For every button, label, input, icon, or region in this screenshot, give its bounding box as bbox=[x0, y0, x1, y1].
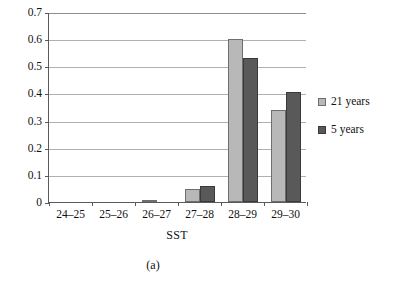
y-axis-tick-label: 0.3 bbox=[28, 116, 42, 128]
bar bbox=[286, 92, 301, 202]
y-axis-tick-label: 0.2 bbox=[28, 143, 42, 155]
x-axis-tick-label: 24–25 bbox=[56, 209, 85, 221]
bars-layer bbox=[49, 13, 306, 202]
legend-swatch-icon bbox=[318, 126, 326, 134]
bar-group bbox=[221, 13, 264, 202]
y-axis-tick-label: 0.7 bbox=[28, 7, 42, 19]
x-axis-tick-mark bbox=[221, 202, 222, 206]
bar bbox=[271, 110, 286, 202]
x-axis-title: SST bbox=[48, 228, 306, 243]
chart-legend: 21 years5 years bbox=[318, 93, 392, 149]
x-axis-tick-mark bbox=[307, 202, 308, 206]
bar bbox=[228, 39, 243, 202]
x-axis-tick-label: 29–30 bbox=[271, 209, 300, 221]
bar-group bbox=[135, 13, 178, 202]
figure-container: 00.10.20.30.40.50.60.7 24–2525–2626–2727… bbox=[0, 0, 395, 283]
legend-item[interactable]: 5 years bbox=[318, 121, 392, 138]
legend-item-label: 21 years bbox=[331, 96, 370, 108]
bar-group bbox=[264, 13, 307, 202]
bar bbox=[200, 186, 215, 202]
y-axis-tick-label: 0.4 bbox=[28, 89, 42, 101]
x-axis-tick-mark bbox=[49, 202, 50, 206]
bar-group bbox=[178, 13, 221, 202]
x-axis-tick-label: 27–28 bbox=[185, 209, 214, 221]
bar bbox=[185, 189, 200, 202]
legend-item[interactable]: 21 years bbox=[318, 93, 392, 110]
plot-area: 00.10.20.30.40.50.60.7 24–2525–2626–2727… bbox=[48, 13, 306, 203]
x-axis-tick-label: 25–26 bbox=[99, 209, 128, 221]
legend-item-label: 5 years bbox=[331, 124, 364, 136]
x-axis-tick-label: 26–27 bbox=[142, 209, 171, 221]
y-axis-tick-label: 0 bbox=[36, 197, 42, 209]
x-axis-tick-mark bbox=[264, 202, 265, 206]
bar bbox=[142, 200, 157, 202]
y-axis-tick-label: 0.6 bbox=[28, 34, 42, 46]
legend-swatch-icon bbox=[318, 98, 326, 106]
x-axis-tick-label: 28–29 bbox=[228, 209, 257, 221]
x-axis-tick-mark bbox=[135, 202, 136, 206]
y-axis-tick-label: 0.1 bbox=[28, 170, 42, 182]
y-axis-tick-label: 0.5 bbox=[28, 62, 42, 74]
x-axis-tick-mark bbox=[92, 202, 93, 206]
bar-group bbox=[49, 13, 92, 202]
figure-caption: (a) bbox=[0, 258, 306, 273]
bar bbox=[243, 58, 258, 202]
x-axis-tick-mark bbox=[178, 202, 179, 206]
bar-group bbox=[92, 13, 135, 202]
